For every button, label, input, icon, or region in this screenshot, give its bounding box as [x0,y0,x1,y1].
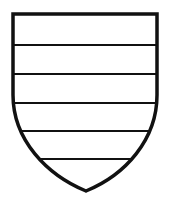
shield-figure [0,0,170,202]
shield-icon [0,0,170,202]
